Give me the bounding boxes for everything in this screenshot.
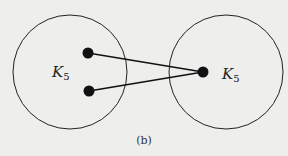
- left-node-bottom: [84, 86, 95, 97]
- left-cluster-circle: [13, 15, 127, 129]
- edge-top: [88, 53, 203, 72]
- figure-caption: (b): [136, 134, 152, 147]
- edge-bottom: [89, 72, 203, 91]
- left-node-top: [83, 48, 94, 59]
- diagram-canvas: K5 K5 (b): [0, 0, 288, 156]
- left-cluster-label: K5: [51, 63, 70, 82]
- right-node: [198, 67, 209, 78]
- right-cluster-label: K5: [221, 65, 240, 84]
